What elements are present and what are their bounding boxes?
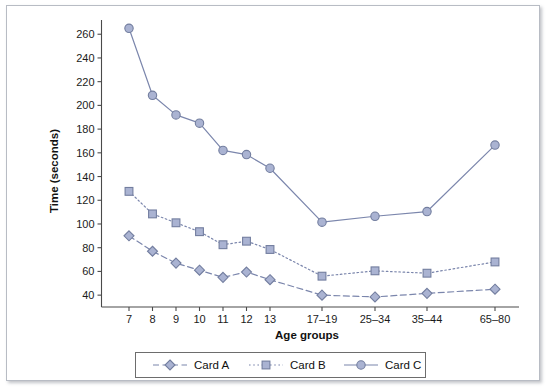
data-point-circle <box>491 141 499 149</box>
data-point-circle <box>242 150 250 158</box>
x-tick-label: 8 <box>149 313 155 325</box>
x-tick-label: 17–19 <box>307 313 338 325</box>
x-tick-label: 13 <box>264 313 276 325</box>
x-tick-label: 12 <box>240 313 252 325</box>
data-point-square <box>371 267 379 275</box>
data-point-circle <box>219 146 227 154</box>
data-point-circle <box>125 24 133 32</box>
series-card-c <box>125 24 499 226</box>
data-point-diamond <box>242 267 252 277</box>
y-tick-label: 220 <box>76 76 94 88</box>
y-tick-label: 160 <box>76 147 94 159</box>
data-point-square <box>243 237 251 245</box>
y-tick-label: 200 <box>76 99 94 111</box>
x-tick-label: 9 <box>173 313 179 325</box>
data-point-square <box>423 269 431 277</box>
series-card-a <box>124 231 500 302</box>
data-series-layer <box>124 24 500 302</box>
data-point-diamond <box>317 290 327 300</box>
y-tick-label: 240 <box>76 52 94 64</box>
series-card-b <box>125 187 499 280</box>
data-point-square <box>149 210 157 218</box>
x-tick-label: 10 <box>193 313 205 325</box>
data-point-square <box>491 258 499 266</box>
y-axis-ticks: 406080100120140160180200220240260 <box>76 28 101 301</box>
x-tick-label: 11 <box>217 313 228 325</box>
y-tick-label: 180 <box>76 123 94 135</box>
y-tick-label: 40 <box>82 289 94 301</box>
y-tick-label: 80 <box>82 242 94 254</box>
data-point-circle <box>357 361 365 369</box>
data-point-circle <box>318 218 326 226</box>
data-point-square <box>196 228 204 236</box>
y-tick-label: 60 <box>82 265 94 277</box>
y-tick-label: 140 <box>76 171 94 183</box>
data-point-circle <box>371 212 379 220</box>
legend-label: Card B <box>290 359 326 371</box>
series-line <box>129 236 495 297</box>
data-point-circle <box>148 91 156 99</box>
figure-frame: Time (seconds) 4060801001201401601802002… <box>6 5 540 381</box>
data-point-square <box>125 187 133 195</box>
x-tick-label: 65–80 <box>480 313 511 325</box>
legend: Card ACard BCard C <box>136 353 426 378</box>
line-chart: Time (seconds) 4060801001201401601802002… <box>7 6 541 382</box>
series-line <box>129 28 495 222</box>
x-tick-label: 35–44 <box>412 313 443 325</box>
data-point-square <box>219 241 227 249</box>
data-point-square <box>266 246 274 254</box>
data-point-diamond <box>195 265 205 275</box>
data-point-diamond <box>422 288 432 298</box>
x-axis-title: Age groups <box>275 329 339 341</box>
y-tick-label: 100 <box>76 218 94 230</box>
data-point-diamond <box>490 284 500 294</box>
data-point-diamond <box>148 246 158 256</box>
data-point-circle <box>195 119 203 127</box>
data-point-square <box>172 219 180 227</box>
y-axis-title: Time (seconds) <box>48 129 60 213</box>
data-point-diamond <box>124 231 134 241</box>
legend-box <box>136 353 426 378</box>
x-tick-label: 7 <box>126 313 132 325</box>
data-point-circle <box>172 111 180 119</box>
legend-label: Card A <box>194 359 229 371</box>
data-point-diamond <box>218 272 228 282</box>
data-point-square <box>262 361 270 369</box>
x-axis-ticks: 7891011121317–1925–3435–4465–80 <box>126 307 510 325</box>
data-point-diamond <box>171 258 181 268</box>
data-point-diamond <box>370 292 380 302</box>
data-point-diamond <box>265 275 275 285</box>
data-point-square <box>318 272 326 280</box>
y-tick-label: 120 <box>76 194 94 206</box>
y-tick-label: 260 <box>76 28 94 40</box>
series-line <box>129 191 495 276</box>
data-point-circle <box>423 207 431 215</box>
x-tick-label: 25–34 <box>360 313 391 325</box>
legend-label: Card C <box>385 359 421 371</box>
data-point-circle <box>266 164 274 172</box>
